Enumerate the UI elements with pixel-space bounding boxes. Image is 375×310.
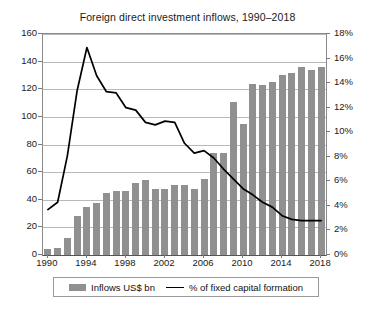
y-axis-left-tick-mark <box>38 144 42 145</box>
legend-label-percent: % of fixed capital formation <box>189 282 303 293</box>
x-axis-tick-label: 2010 <box>222 258 262 268</box>
y-axis-left-tick-mark <box>38 171 42 172</box>
y-axis-right-tick-label: 6% <box>334 175 370 185</box>
y-axis-right-tick-mark <box>326 254 330 255</box>
y-axis-left-tick-label: 40 <box>7 194 37 204</box>
y-axis-left-tick-mark <box>38 61 42 62</box>
chart-title: Foreign direct investment inflows, 1990–… <box>0 11 375 23</box>
y-axis-right-tick-mark <box>326 180 330 181</box>
y-axis-left-tick-label: 140 <box>7 56 37 66</box>
line-series-percent-fixed-capital-formation <box>43 34 326 255</box>
y-axis-right-tick-mark <box>326 131 330 132</box>
y-axis-right-tick-mark <box>326 156 330 157</box>
bar-swatch-icon <box>69 284 86 291</box>
y-axis-right-tick-mark <box>326 33 330 34</box>
y-axis-right-tick-label: 8% <box>334 151 370 161</box>
y-axis-left-tick-label: 60 <box>7 166 37 176</box>
x-axis-tick-label: 2018 <box>300 258 340 268</box>
y-axis-left-tick-mark <box>38 88 42 89</box>
y-axis-left-tick-mark <box>38 33 42 34</box>
x-axis-tick-mark <box>86 255 87 258</box>
y-axis-left-tick-mark <box>38 116 42 117</box>
y-axis-right-tick-mark <box>326 82 330 83</box>
y-axis-right-tick-label: 10% <box>334 126 370 136</box>
y-axis-right-tick-label: 18% <box>334 28 370 38</box>
x-axis-tick-mark <box>125 255 126 258</box>
y-axis-right-tick-mark <box>326 107 330 108</box>
x-axis-tick-label: 2002 <box>144 258 184 268</box>
x-axis-tick-label: 2006 <box>183 258 223 268</box>
y-axis-right-tick-label: 4% <box>334 200 370 210</box>
chart-legend: Inflows US$ bn % of fixed capital format… <box>53 277 319 297</box>
x-axis-tick-mark <box>203 255 204 258</box>
plot-area <box>42 33 327 256</box>
y-axis-right-tick-label: 12% <box>334 102 370 112</box>
y-axis-left-tick-label: 120 <box>7 83 37 93</box>
y-axis-left-tick-label: 20 <box>7 221 37 231</box>
legend-label-inflows: Inflows US$ bn <box>91 282 155 293</box>
y-axis-right-tick-label: 16% <box>334 53 370 63</box>
y-axis-left-tick-mark <box>38 199 42 200</box>
legend-item-inflows: Inflows US$ bn <box>69 282 155 293</box>
x-axis-tick-label: 1994 <box>66 258 106 268</box>
y-axis-left-tick-label: 160 <box>7 28 37 38</box>
legend-item-percent-fixed-capital-formation: % of fixed capital formation <box>166 282 303 293</box>
y-axis-right-tick-label: 14% <box>334 77 370 87</box>
x-axis-tick-mark <box>281 255 282 258</box>
x-axis-tick-label: 1990 <box>27 258 67 268</box>
x-axis-tick-label: 2014 <box>261 258 301 268</box>
y-axis-right-tick-mark <box>326 58 330 59</box>
y-axis-left-tick-mark <box>38 226 42 227</box>
y-axis-right-tick-mark <box>326 205 330 206</box>
line-swatch-icon <box>166 287 184 288</box>
y-axis-right-tick-label: 2% <box>334 224 370 234</box>
line-path <box>43 34 326 255</box>
y-axis-left-tick-label: 80 <box>7 139 37 149</box>
y-axis-right-tick-mark <box>326 229 330 230</box>
y-axis-left-tick-mark <box>38 254 42 255</box>
y-axis-left-tick-label: 100 <box>7 111 37 121</box>
x-axis-tick-mark <box>164 255 165 258</box>
x-axis-tick-mark <box>47 255 48 258</box>
x-axis-tick-label: 1998 <box>105 258 145 268</box>
x-axis-tick-mark <box>242 255 243 258</box>
x-axis-tick-mark <box>320 255 321 258</box>
chart-container: Foreign direct investment inflows, 1990–… <box>0 0 375 310</box>
